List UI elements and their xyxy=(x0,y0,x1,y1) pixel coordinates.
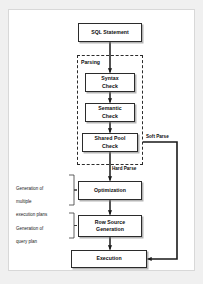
annotation-query-plan-line-1: query plan xyxy=(16,239,69,246)
edge-softparse-bypass xyxy=(143,142,177,259)
annotation-multiple-execution-plans-line-2: execution plans xyxy=(16,212,69,219)
node-optimization-line-0: Optimization xyxy=(94,187,126,194)
diagram-card: Parsing SQL Statement Syntax Check Seman… xyxy=(8,9,195,271)
parsing-group-label: Parsing xyxy=(81,59,100,65)
node-shared-pool-check-line-1: Check xyxy=(102,143,118,150)
node-semantic-check-line-1: Check xyxy=(102,113,118,120)
node-sql-statement[interactable]: SQL Statement xyxy=(78,23,142,42)
node-syntax-check-line-1: Check xyxy=(102,83,118,90)
edge-label-hard-parse: Hard Parse xyxy=(112,166,136,171)
edge-label-soft-parse: Soft Parse xyxy=(146,134,169,139)
node-shared-pool-check[interactable]: Shared Pool Check xyxy=(82,133,138,152)
node-syntax-check-line-0: Syntax xyxy=(101,75,118,82)
node-row-source-generation[interactable]: Row Source Generation xyxy=(78,215,142,237)
node-semantic-check[interactable]: Semantic Check xyxy=(85,103,135,122)
node-execution[interactable]: Execution xyxy=(71,250,147,268)
node-optimization[interactable]: Optimization xyxy=(78,181,142,200)
node-row-source-generation-line-0: Row Source xyxy=(95,219,125,226)
annotation-query-plan: Generation of query plan xyxy=(16,219,69,252)
annotation-multiple-execution-plans-line-0: Generation of xyxy=(16,186,69,193)
node-semantic-check-line-0: Semantic xyxy=(98,105,121,112)
node-sql-statement-line-0: SQL Statement xyxy=(91,29,129,36)
node-shared-pool-check-line-0: Shared Pool xyxy=(95,135,126,142)
diagram-stage: Parsing SQL Statement Syntax Check Seman… xyxy=(9,10,196,272)
annotation-multiple-execution-plans-line-1: multiple xyxy=(16,199,69,206)
node-execution-line-0: Execution xyxy=(96,255,121,262)
annotation-multiple-execution-plans: Generation of multiple execution plans xyxy=(16,179,69,225)
node-row-source-generation-line-1: Generation xyxy=(96,226,124,233)
annotation-query-plan-line-0: Generation of xyxy=(16,226,69,233)
node-syntax-check[interactable]: Syntax Check xyxy=(85,73,135,92)
page-background: Parsing SQL Statement Syntax Check Seman… xyxy=(0,0,203,284)
